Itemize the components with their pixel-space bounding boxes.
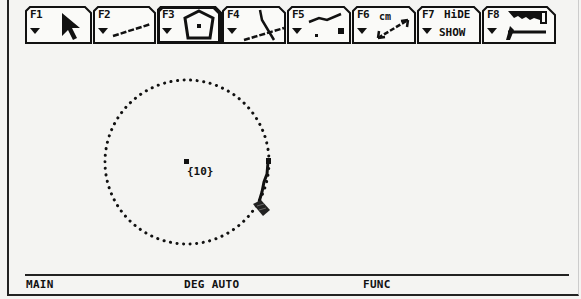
tab-f5-transformation[interactable]: F5 <box>287 6 352 44</box>
circle-center-label: {10} <box>187 165 214 178</box>
tab-f7-hide-show[interactable]: F7 HiDE SHOW <box>417 6 482 44</box>
draw-tools-icon <box>504 8 550 42</box>
curves-polygons-icon <box>181 9 217 41</box>
f8-key-label: F8 <box>487 8 499 21</box>
line-icon <box>111 20 155 40</box>
transformation-icon <box>305 10 349 42</box>
status-angle-mode: DEG AUTO <box>184 278 239 291</box>
tab-f6-measurement[interactable]: F6 cm <box>352 6 417 44</box>
dropdown-arrow-icon <box>292 28 302 34</box>
pencil-icon <box>249 160 279 220</box>
f5-key-label: F5 <box>292 8 304 21</box>
tab-f2-lines[interactable]: F2 <box>93 6 157 44</box>
f1-key-label: F1 <box>30 8 42 21</box>
pointer-arrow-icon <box>59 12 83 42</box>
dropdown-arrow-icon <box>422 28 432 34</box>
tab-f4-construction[interactable]: F4 <box>222 6 287 44</box>
dotted-circle[interactable] <box>9 48 577 274</box>
f4-key-label: F4 <box>227 8 239 21</box>
f2-key-label: F2 <box>98 8 110 21</box>
status-folder: MAIN <box>26 278 54 291</box>
f3-key-label: F3 <box>162 8 174 21</box>
show-label: SHOW <box>439 26 466 39</box>
f6-key-label: F6 <box>357 8 369 21</box>
dropdown-arrow-icon <box>162 28 172 34</box>
status-graph-mode: FUNC <box>363 278 391 291</box>
status-divider <box>25 274 569 276</box>
tab-f3-curves-polygons[interactable]: F3 <box>157 6 222 44</box>
tab-f1-pointer[interactable]: F1 <box>25 6 93 44</box>
function-key-toolbar: F1 F2 F3 F4 F5 F6 cm F <box>25 6 557 46</box>
construction-icon <box>240 8 286 44</box>
hide-label: HiDE <box>444 8 471 21</box>
dropdown-arrow-icon <box>227 28 237 34</box>
dropdown-arrow-icon <box>357 28 367 34</box>
geometry-canvas[interactable]: {10} <box>9 48 577 274</box>
dropdown-arrow-icon <box>98 28 108 34</box>
measurement-icon <box>374 16 414 42</box>
dropdown-arrow-icon <box>487 28 497 34</box>
tab-f8-draw-tools[interactable]: F8 <box>482 6 557 44</box>
f7-key-label: F7 <box>422 8 434 21</box>
center-point <box>184 159 189 164</box>
dropdown-arrow-icon <box>30 28 40 34</box>
